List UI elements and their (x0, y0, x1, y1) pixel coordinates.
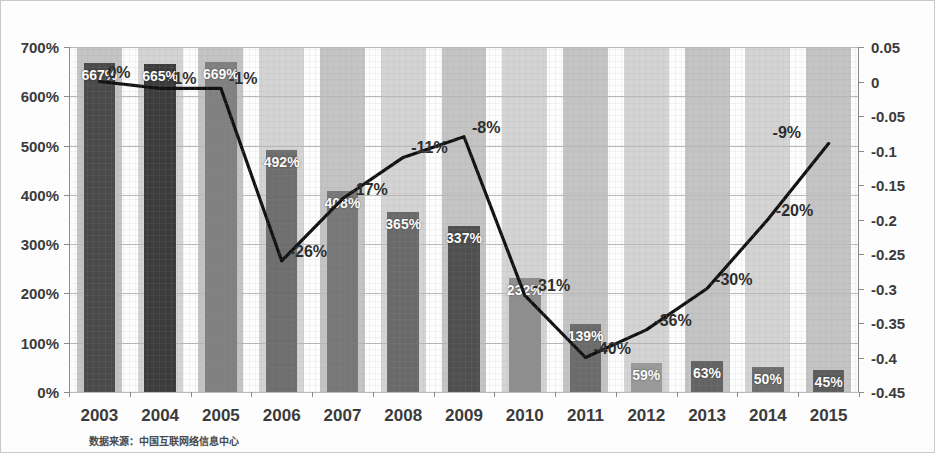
line-value-label: -26% (290, 243, 327, 261)
line-value-label: -9% (773, 124, 801, 142)
x-axis-tick (312, 392, 313, 397)
right-axis-tick (859, 151, 864, 152)
right-axis-tick (859, 289, 864, 290)
right-axis-tick-label: -0.05 (871, 109, 905, 124)
chart-container: 667%665%669%492%408%365%337%232%139%59%6… (0, 0, 935, 453)
line-value-label: -1% (229, 70, 257, 88)
left-axis-tick (64, 47, 69, 48)
x-axis-tick (434, 392, 435, 397)
left-axis-tick-label: 700% (1, 40, 59, 55)
x-axis-tick (251, 392, 252, 397)
x-axis-tick (616, 392, 617, 397)
line-series (69, 47, 859, 392)
right-axis-tick (859, 220, 864, 221)
line-value-label: -11% (411, 139, 447, 157)
right-axis-tick-label: -0.35 (871, 316, 905, 331)
right-axis-tick-label: 0 (871, 75, 879, 90)
line-value-label: -40% (594, 340, 631, 358)
plot-area: 667%665%669%492%408%365%337%232%139%59%6… (69, 47, 859, 392)
right-axis-tick (859, 323, 864, 324)
line-value-label: -17% (350, 181, 387, 199)
x-axis-tick (798, 392, 799, 397)
left-axis-tick (64, 293, 69, 294)
left-axis-tick (64, 343, 69, 344)
line-value-label: 0% (107, 64, 130, 82)
line-value-label: -1% (168, 70, 196, 88)
left-axis-tick (64, 96, 69, 97)
left-axis-tick-label: 500% (1, 139, 59, 154)
right-axis-tick-label: -0.25 (871, 247, 905, 262)
x-axis-tick (373, 392, 374, 397)
left-axis-tick-label: 300% (1, 237, 59, 252)
right-axis-tick (859, 358, 864, 359)
line-value-label: -8% (472, 119, 500, 137)
right-axis-tick-label: -0.4 (871, 351, 897, 366)
line-value-label: -30% (715, 271, 752, 289)
x-axis-tick (191, 392, 192, 397)
right-axis-tick-label: -0.3 (871, 282, 897, 297)
left-axis-tick (64, 244, 69, 245)
right-axis-tick-label: 0.05 (871, 40, 900, 55)
right-axis-tick (859, 47, 864, 48)
right-axis-tick-label: -0.2 (871, 213, 897, 228)
x-axis-tick (130, 392, 131, 397)
left-axis-tick-label: 100% (1, 336, 59, 351)
x-axis-tick (69, 392, 70, 397)
x-axis-tick (859, 392, 860, 397)
right-axis-tick (859, 116, 864, 117)
left-axis-tick (64, 195, 69, 196)
x-axis-tick (737, 392, 738, 397)
left-axis-tick-label: 600% (1, 89, 59, 104)
left-axis-tick-label: 400% (1, 188, 59, 203)
right-axis-tick-label: -0.45 (871, 385, 905, 400)
gridline (69, 392, 859, 393)
x-axis-tick-label: 2015 (789, 406, 869, 426)
line-value-label: -36% (654, 312, 691, 330)
x-axis-tick (677, 392, 678, 397)
source-note: 数据来源：中国互联网络信息中心 (89, 433, 239, 448)
left-axis-tick-label: 200% (1, 286, 59, 301)
right-axis-tick (859, 82, 864, 83)
left-axis-tick (64, 146, 69, 147)
line-value-label: -20% (776, 202, 813, 220)
line-value-label: -31% (533, 277, 570, 295)
x-axis-tick (555, 392, 556, 397)
left-axis-tick-label: 0% (1, 385, 59, 400)
x-axis-tick (494, 392, 495, 397)
right-axis-tick (859, 185, 864, 186)
right-axis-tick-label: -0.1 (871, 144, 897, 159)
right-axis-tick-label: -0.15 (871, 178, 905, 193)
right-axis-tick (859, 254, 864, 255)
